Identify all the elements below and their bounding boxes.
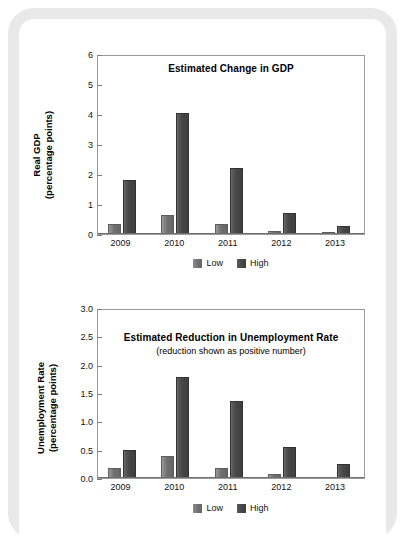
x-tick-label-2011: 2011 (218, 238, 237, 248)
bar-low-2010 (161, 456, 174, 478)
unemp-y-axis-title: Unemployment Rate (percentage points) (35, 338, 59, 478)
y-tick-mark (97, 85, 102, 86)
legend-swatch-icon (193, 259, 202, 268)
gdp-legend: LowHigh (97, 258, 365, 268)
bar-high-2012 (283, 213, 296, 234)
y-tick-mark (97, 366, 102, 367)
unemployment-legend: LowHigh (97, 503, 365, 513)
gdp-plot-area: Estimated Change in GDP (97, 55, 365, 235)
y-tick-label: 2.0 (80, 361, 93, 371)
bar-low-2010 (161, 215, 174, 235)
unemp-y-axis-title-line2: (percentage points) (47, 338, 59, 478)
bar-high-2013 (337, 464, 350, 478)
x-tick-label-2010: 2010 (164, 482, 184, 492)
y-tick-label: 4 (88, 110, 93, 120)
y-tick-label: 5 (88, 80, 93, 90)
page-frame: Real GDP (percentage points) Estimated C… (8, 8, 397, 539)
y-tick-mark (97, 145, 102, 146)
y-tick-mark (97, 205, 102, 206)
y-tick-mark (97, 394, 102, 395)
y-tick-mark (97, 175, 102, 176)
gdp-bars-layer (98, 56, 364, 234)
gdp-y-axis-title-line1: Real GDP (31, 95, 43, 215)
legend-item-high[interactable]: High (237, 503, 269, 513)
x-tick-label-2009: 2009 (111, 238, 131, 248)
y-tick-label: 0.0 (80, 474, 93, 484)
x-tick-label-2012: 2012 (271, 482, 291, 492)
unemployment-plot-area: Estimated Reduction in Unemployment Rate… (97, 309, 365, 479)
y-tick-label: 3.0 (80, 304, 93, 314)
y-tick-label: 0.5 (80, 446, 93, 456)
x-tick-label-2011: 2011 (218, 482, 237, 492)
legend-swatch-icon (237, 504, 246, 513)
bar-high-2010 (176, 113, 189, 235)
bar-high-2009 (123, 180, 136, 234)
chart-estimated-reduction-in-unemployment-rate: Unemployment Rate (percentage points) Es… (19, 291, 386, 539)
bar-high-2011 (230, 168, 243, 234)
y-tick-mark (97, 422, 102, 423)
legend-swatch-icon (193, 504, 202, 513)
x-tick-label-2013: 2013 (325, 482, 345, 492)
legend-item-high[interactable]: High (237, 258, 269, 268)
y-tick-mark (97, 337, 102, 338)
bar-high-2009 (123, 450, 136, 478)
y-tick-mark (97, 479, 102, 480)
legend-item-low[interactable]: Low (193, 258, 223, 268)
y-tick-label: 2.5 (80, 332, 93, 342)
bar-high-2012 (283, 447, 296, 478)
legend-label: High (250, 258, 269, 268)
legend-swatch-icon (237, 259, 246, 268)
legend-label: High (250, 503, 269, 513)
x-tick-label-2009: 2009 (111, 482, 131, 492)
gdp-x-axis-line (98, 233, 364, 234)
y-tick-label: 2 (88, 170, 93, 180)
legend-item-low[interactable]: Low (193, 503, 223, 513)
y-tick-mark (97, 115, 102, 116)
bar-high-2011 (230, 401, 243, 478)
y-tick-mark (97, 235, 102, 236)
unemployment-x-axis-line (98, 477, 364, 478)
gdp-y-axis-title-line2: (percentage points) (43, 95, 55, 215)
y-tick-mark (97, 451, 102, 452)
y-tick-label: 0 (88, 230, 93, 240)
legend-label: Low (206, 503, 223, 513)
y-tick-mark (97, 55, 102, 56)
x-tick-label-2010: 2010 (164, 238, 184, 248)
y-tick-label: 1 (88, 200, 93, 210)
y-tick-mark (97, 309, 102, 310)
legend-label: Low (206, 258, 223, 268)
y-tick-label: 6 (88, 50, 93, 60)
y-tick-label: 1.0 (80, 417, 93, 427)
gdp-y-axis-title: Real GDP (percentage points) (31, 95, 55, 215)
bar-high-2010 (176, 377, 189, 478)
unemployment-bars-layer (98, 310, 364, 478)
unemp-y-axis-title-line1: Unemployment Rate (35, 338, 47, 478)
x-tick-label-2013: 2013 (325, 238, 345, 248)
x-tick-label-2012: 2012 (271, 238, 291, 248)
y-tick-label: 3 (88, 140, 93, 150)
y-tick-label: 1.5 (80, 389, 93, 399)
chart-estimated-change-in-gdp: Real GDP (percentage points) Estimated C… (19, 33, 386, 283)
